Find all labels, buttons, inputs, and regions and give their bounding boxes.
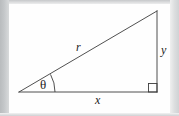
horizontal-leg-label: x xyxy=(95,94,100,106)
angle-arc-icon xyxy=(51,74,56,92)
figure-root: r x y θ xyxy=(0,0,179,116)
vertical-leg-label: y xyxy=(161,44,166,56)
angle-label: θ xyxy=(40,78,46,91)
hypotenuse-label: r xyxy=(76,41,81,53)
triangle-diagram xyxy=(0,0,179,116)
right-angle-icon xyxy=(149,84,158,93)
